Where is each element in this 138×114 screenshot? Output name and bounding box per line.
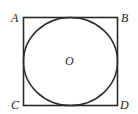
label-d: D: [119, 98, 129, 112]
geometry-figure: A B C D O: [0, 0, 138, 114]
label-c: C: [11, 98, 20, 112]
label-o-center: O: [65, 54, 74, 68]
label-a: A: [10, 11, 19, 25]
label-b: B: [121, 11, 129, 25]
